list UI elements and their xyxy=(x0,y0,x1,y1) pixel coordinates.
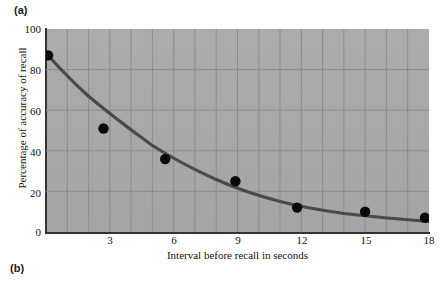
data-point xyxy=(360,207,370,217)
x-tick-label-18: 18 xyxy=(416,234,440,246)
y-tick-label-60: 60 xyxy=(15,105,41,117)
figure-panel-a: (a) Percentage of accuracy of recall 100… xyxy=(0,0,440,283)
data-point-markers xyxy=(46,50,429,223)
x-tick-label-15: 15 xyxy=(353,234,379,246)
x-tick-label-6: 6 xyxy=(161,234,187,246)
x-axis-title: Interval before recall in seconds xyxy=(46,249,429,261)
x-tick-label-3: 3 xyxy=(97,234,123,246)
data-point xyxy=(160,154,170,164)
y-tick-label-80: 80 xyxy=(15,64,41,76)
y-tick-label-100: 100 xyxy=(15,23,41,35)
data-point xyxy=(98,123,108,133)
y-tick-label-40: 40 xyxy=(15,146,41,158)
data-series xyxy=(46,29,429,232)
y-tick-label-0: 0 xyxy=(15,226,41,238)
data-point xyxy=(292,202,302,212)
plot-area xyxy=(46,29,429,232)
panel-label-a: (a) xyxy=(14,4,27,16)
panel-label-b: (b) xyxy=(10,262,24,274)
y-tick-label-20: 20 xyxy=(15,187,41,199)
x-tick-label-12: 12 xyxy=(289,234,315,246)
fit-curve xyxy=(48,55,429,221)
x-tick-label-9: 9 xyxy=(225,234,251,246)
data-point xyxy=(230,176,240,186)
